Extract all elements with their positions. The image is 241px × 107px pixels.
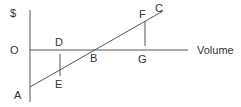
label-g: G xyxy=(138,53,147,65)
label-a: A xyxy=(14,89,22,101)
y-axis-label: $ xyxy=(10,7,16,19)
profit-line xyxy=(30,11,163,87)
breakeven-diagram: $ Volume O A B C D E F G xyxy=(0,0,241,107)
label-e: E xyxy=(55,78,62,90)
label-f: F xyxy=(139,8,146,20)
x-axis-label: Volume xyxy=(197,44,234,56)
label-d: D xyxy=(55,36,63,48)
label-b: B xyxy=(90,52,97,64)
label-o: O xyxy=(10,44,19,56)
label-c: C xyxy=(155,2,163,14)
